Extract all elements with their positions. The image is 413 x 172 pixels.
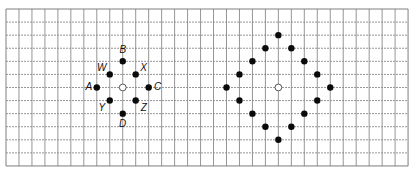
point-dot [301,58,307,64]
point-dot [107,97,113,103]
point-dot [275,32,281,38]
point-dot [288,45,294,51]
point-dot [301,110,307,116]
point-dot [236,71,242,77]
point-label-w: W [97,63,106,73]
point-dot [145,84,151,90]
point-label-a: A [85,82,92,92]
center-point-icon [119,84,126,91]
point-label-c: C [154,82,161,92]
point-label-y: Y [98,103,105,113]
point-dot [107,71,113,77]
point-dot [327,84,333,90]
point-dot [236,97,242,103]
point-dot [262,124,268,130]
point-dot [288,124,294,130]
point-dot [133,71,139,77]
point-label-b: B [119,45,126,55]
center-point-icon [275,84,282,91]
point-dot [94,84,100,90]
point-dot [223,84,229,90]
point-dot [249,58,255,64]
point-label-d: D [119,119,126,129]
point-label-x: X [140,63,147,73]
grid-lines [6,9,408,166]
point-dot [275,137,281,143]
point-dot [314,97,320,103]
point-dot [249,110,255,116]
point-label-z: Z [141,103,147,113]
point-dot [120,110,126,116]
point-dot [133,97,139,103]
point-dot [262,45,268,51]
grid-diagram [0,0,413,172]
point-dot [314,71,320,77]
point-dot [120,58,126,64]
